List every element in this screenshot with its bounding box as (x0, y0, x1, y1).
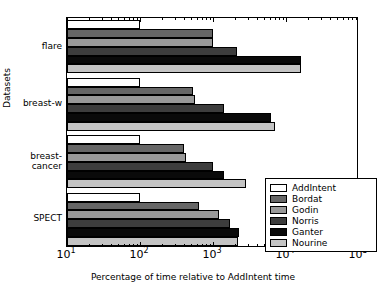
x-minor-tick (102, 244, 103, 246)
bar-bordat-breast-w (67, 87, 193, 96)
x-major-tick-top (67, 18, 68, 22)
bar-addintent-flare (67, 20, 140, 29)
bar-nourine-breast-w (67, 122, 275, 131)
x-minor-tick-top (137, 18, 138, 20)
y-major-tick (66, 104, 67, 105)
x-major-tick-top (213, 18, 214, 22)
bar-bordat-spect (67, 202, 199, 211)
legend-item-nourine[interactable]: Nourine (270, 237, 372, 248)
x-minor-tick-top (279, 18, 280, 20)
x-minor-tick (133, 244, 134, 246)
bar-addintent-breast-cancer (67, 135, 140, 144)
x-minor-tick-top (129, 18, 130, 20)
x-minor-tick-top (264, 18, 265, 20)
x-tick-label: 103 (202, 249, 221, 261)
x-minor-tick (191, 244, 192, 246)
x-major-tick (213, 242, 214, 246)
x-minor-tick-top (235, 18, 236, 20)
x-minor-tick (129, 244, 130, 246)
y-tick-label-breast-w: breast-w (14, 98, 62, 108)
x-minor-tick-top (124, 18, 125, 20)
legend-swatch-ganter (270, 228, 287, 236)
x-minor-tick-top (206, 18, 207, 20)
legend-swatch-godin (270, 206, 287, 214)
legend-item-addintent[interactable]: AddIntent (270, 182, 372, 193)
x-minor-tick-top (270, 18, 271, 20)
legend-swatch-nourine (270, 239, 287, 247)
bar-ganter-flare (67, 56, 301, 65)
x-minor-tick-top (348, 18, 349, 20)
y-major-tick-right (357, 104, 358, 105)
x-minor-tick (118, 244, 119, 246)
legend-swatch-addintent (270, 184, 287, 192)
bar-nourine-flare (67, 64, 301, 73)
bar-nourine-breast-cancer (67, 179, 246, 188)
y-tick-label-spect: SPECT (14, 213, 62, 223)
bar-addintent-spect (67, 193, 140, 202)
bar-bordat-breast-cancer (67, 144, 184, 153)
x-minor-tick (257, 244, 258, 246)
bar-norris-breast-cancer (67, 162, 213, 171)
x-minor-tick-top (197, 18, 198, 20)
x-axis-title: Percentage of time relative to AddIntent… (0, 272, 386, 282)
x-minor-tick (202, 244, 203, 246)
x-minor-tick (137, 244, 138, 246)
x-major-tick-top (140, 18, 141, 22)
x-minor-tick-top (356, 18, 357, 20)
x-minor-tick-top (202, 18, 203, 20)
y-major-tick-right (357, 162, 358, 163)
y-major-tick (66, 47, 67, 48)
y-major-tick-right (357, 47, 358, 48)
x-minor-tick-top (184, 18, 185, 20)
x-minor-tick (124, 244, 125, 246)
x-major-tick-top (286, 18, 287, 22)
x-minor-tick-top (352, 18, 353, 20)
x-minor-tick-top (257, 18, 258, 20)
x-minor-tick (184, 244, 185, 246)
bar-godin-breast-cancer (67, 153, 186, 162)
x-minor-tick-top (89, 18, 90, 20)
x-minor-tick-top (175, 18, 176, 20)
x-minor-tick-top (275, 18, 276, 20)
bar-ganter-breast-w (67, 113, 271, 122)
y-major-tick (66, 162, 67, 163)
bar-godin-spect (67, 210, 219, 219)
legend-label: Ganter (292, 227, 323, 237)
bar-godin-flare (67, 38, 213, 47)
x-minor-tick-top (283, 18, 284, 20)
legend-label: Bordat (292, 194, 322, 204)
x-minor-tick (111, 244, 112, 246)
bar-norris-spect (67, 219, 230, 228)
bar-norris-flare (67, 47, 237, 56)
x-minor-tick-top (343, 18, 344, 20)
bar-ganter-breast-cancer (67, 171, 224, 180)
x-minor-tick-top (111, 18, 112, 20)
x-minor-tick-top (102, 18, 103, 20)
x-major-tick (140, 242, 141, 246)
chart-figure: 101102103104105 SPECTbreast- cancerbreas… (0, 0, 386, 298)
x-minor-tick (197, 244, 198, 246)
x-tick-label: 101 (56, 249, 75, 261)
y-major-tick (66, 219, 67, 220)
legend-item-ganter[interactable]: Ganter (270, 226, 372, 237)
legend-label: AddIntent (292, 183, 336, 193)
x-minor-tick-top (248, 18, 249, 20)
bar-godin-breast-w (67, 95, 195, 104)
bar-norris-breast-w (67, 104, 224, 113)
x-minor-tick (206, 244, 207, 246)
legend-label: Nourine (292, 238, 327, 248)
legend-label: Norris (292, 216, 319, 226)
bar-ganter-spect (67, 228, 239, 237)
x-minor-tick (210, 244, 211, 246)
x-minor-tick-top (308, 18, 309, 20)
legend-item-norris[interactable]: Norris (270, 215, 372, 226)
y-axis-title: Datasets (2, 68, 12, 108)
x-minor-tick-top (337, 18, 338, 20)
x-minor-tick-top (321, 18, 322, 20)
legend-item-godin[interactable]: Godin (270, 204, 372, 215)
x-minor-tick-top (210, 18, 211, 20)
x-minor-tick-top (330, 18, 331, 20)
legend-item-bordat[interactable]: Bordat (270, 193, 372, 204)
x-minor-tick-top (118, 18, 119, 20)
legend-swatch-bordat (270, 195, 287, 203)
